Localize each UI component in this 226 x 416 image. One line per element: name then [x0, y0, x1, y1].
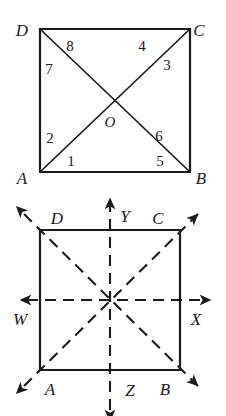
angle-number-1: 1 [67, 153, 75, 169]
vertex-label-d-bottom: D [50, 209, 64, 228]
top-figure: D C A B O 1 2 3 4 5 6 7 8 [15, 21, 207, 188]
vertex-label-b-top: B [196, 169, 207, 188]
geometry-diagram: D C A B O 1 2 3 4 5 6 7 8 [0, 0, 226, 416]
angle-number-2: 2 [46, 130, 54, 146]
top-centre-label: O [105, 114, 116, 130]
vertex-label-b-bottom: B [160, 380, 171, 399]
bottom-figure: D C A B W X Y Z [13, 198, 202, 410]
axis-label-x: X [190, 310, 202, 329]
angle-number-4: 4 [138, 38, 146, 54]
angle-number-6: 6 [155, 128, 163, 144]
figure-stage: D C A B O 1 2 3 4 5 6 7 8 [0, 0, 226, 416]
angle-number-3: 3 [163, 57, 171, 73]
top-diagonals [40, 29, 190, 172]
vertex-label-c-bottom: C [152, 209, 164, 228]
axis-label-w: W [13, 310, 29, 329]
vertex-label-c-top: C [193, 21, 205, 40]
angle-number-5: 5 [156, 153, 164, 169]
vertex-label-a-top: A [16, 169, 28, 188]
axis-label-y: Y [120, 207, 131, 226]
angle-number-8: 8 [66, 38, 74, 54]
angle-number-7: 7 [45, 61, 53, 77]
vertex-label-d-top: D [15, 21, 29, 40]
centre-label-o: O [105, 114, 116, 130]
axis-label-z: Z [125, 381, 135, 400]
vertex-label-a-bottom: A [44, 380, 56, 399]
